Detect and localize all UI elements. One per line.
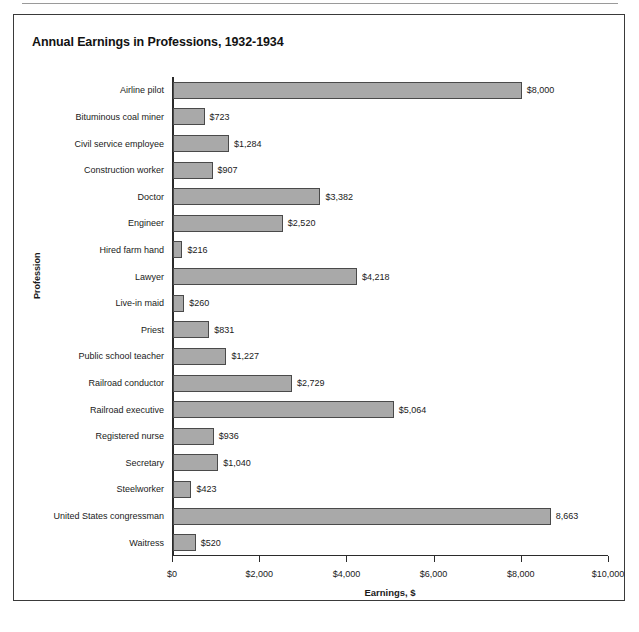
bar[interactable] (173, 508, 551, 525)
x-axis-tick (259, 556, 260, 562)
bar-value-label: $907 (218, 165, 238, 175)
category-label: Railroad conductor (88, 378, 164, 388)
page-top-rule (22, 3, 618, 4)
bar[interactable] (173, 241, 182, 258)
x-axis-tick (608, 556, 609, 562)
bar[interactable] (173, 321, 209, 338)
bar-row: Public school teacher$1,227 (172, 348, 608, 365)
bar[interactable] (173, 108, 205, 125)
category-label: Priest (141, 325, 164, 335)
category-label: Bituminous coal miner (75, 112, 164, 122)
plot-area: Earnings, $ $0$2,000$4,000$6,000$8,000$1… (172, 77, 608, 556)
bar-value-label: $2,520 (288, 218, 316, 228)
category-label: Live-in maid (115, 298, 164, 308)
bar-value-label: $723 (210, 112, 230, 122)
bar-row: Engineer$2,520 (172, 215, 608, 232)
bar[interactable] (173, 481, 191, 498)
category-label: Steelworker (116, 484, 164, 494)
bar-row: Railroad executive$5,064 (172, 401, 608, 418)
bar[interactable] (173, 428, 214, 445)
category-label: Registered nurse (95, 431, 164, 441)
x-axis-tick (521, 556, 522, 562)
x-axis-tick-label: $4,000 (333, 569, 361, 579)
x-axis-tick-label: $6,000 (420, 569, 448, 579)
bar[interactable] (173, 188, 320, 205)
bar-value-label: $3,382 (325, 192, 353, 202)
bar-value-label: $5,064 (399, 405, 427, 415)
x-axis-line (172, 555, 608, 556)
bar-row: Hired farm hand$216 (172, 241, 608, 258)
category-label: Engineer (128, 218, 164, 228)
bar-row: Airline pilot$8,000 (172, 82, 608, 99)
bar-row: United States congressman8,663 (172, 508, 608, 525)
bar[interactable] (173, 268, 357, 285)
bar-row: Railroad conductor$2,729 (172, 375, 608, 392)
bar-value-label: 8,663 (556, 511, 579, 521)
category-label: Lawyer (135, 272, 164, 282)
bar-value-label: $1,284 (234, 139, 262, 149)
bar[interactable] (173, 82, 522, 99)
x-axis-tick (346, 556, 347, 562)
bar-row: Secretary$1,040 (172, 454, 608, 471)
bar[interactable] (173, 401, 394, 418)
x-axis-tick-label: $8,000 (507, 569, 535, 579)
bar-row: Priest$831 (172, 321, 608, 338)
x-axis-tick (172, 556, 173, 562)
category-label: Hired farm hand (99, 245, 164, 255)
bar[interactable] (173, 162, 213, 179)
bar-value-label: $1,227 (231, 351, 259, 361)
category-label: Doctor (137, 192, 164, 202)
bar[interactable] (173, 375, 292, 392)
page-bottom-text (24, 621, 614, 632)
bar-value-label: $8,000 (527, 85, 555, 95)
chart-title: Annual Earnings in Professions, 1932-193… (32, 35, 284, 49)
y-axis-title: Profession (32, 252, 42, 299)
chart-container: Annual Earnings in Professions, 1932-193… (13, 14, 625, 601)
category-label: Airline pilot (120, 85, 164, 95)
bar[interactable] (173, 215, 283, 232)
bar-row: Steelworker$423 (172, 481, 608, 498)
bar[interactable] (173, 534, 196, 551)
bar-value-label: $831 (214, 325, 234, 335)
category-label: Waitress (129, 538, 164, 548)
bar-row: Construction worker$907 (172, 162, 608, 179)
bar-value-label: $2,729 (297, 378, 325, 388)
bar[interactable] (173, 295, 184, 312)
bar-value-label: $4,218 (362, 272, 390, 282)
category-label: Public school teacher (78, 351, 164, 361)
category-label: Construction worker (84, 165, 164, 175)
bar-row: Waitress$520 (172, 534, 608, 551)
x-axis-tick-label: $2,000 (245, 569, 273, 579)
x-axis-tick (434, 556, 435, 562)
bar-value-label: $1,040 (223, 458, 251, 468)
bar-value-label: $936 (219, 431, 239, 441)
category-label: Secretary (125, 458, 164, 468)
bar-value-label: $520 (201, 538, 221, 548)
bar-row: Lawyer$4,218 (172, 268, 608, 285)
category-label: Civil service employee (74, 139, 164, 149)
bar-row: Doctor$3,382 (172, 188, 608, 205)
category-label: United States congressman (53, 511, 164, 521)
bar[interactable] (173, 135, 229, 152)
bar-row: Bituminous coal miner$723 (172, 108, 608, 125)
bar-value-label: $423 (196, 484, 216, 494)
bar-value-label: $260 (189, 298, 209, 308)
x-axis-tick-label: $10,000 (592, 569, 625, 579)
bar-row: Live-in maid$260 (172, 295, 608, 312)
category-label: Railroad executive (90, 405, 164, 415)
x-axis-tick-label: $0 (167, 569, 177, 579)
bar[interactable] (173, 454, 218, 471)
x-axis-title: Earnings, $ (364, 587, 415, 598)
bar-value-label: $216 (187, 245, 207, 255)
bar-row: Registered nurse$936 (172, 428, 608, 445)
bar[interactable] (173, 348, 226, 365)
bar-row: Civil service employee$1,284 (172, 135, 608, 152)
